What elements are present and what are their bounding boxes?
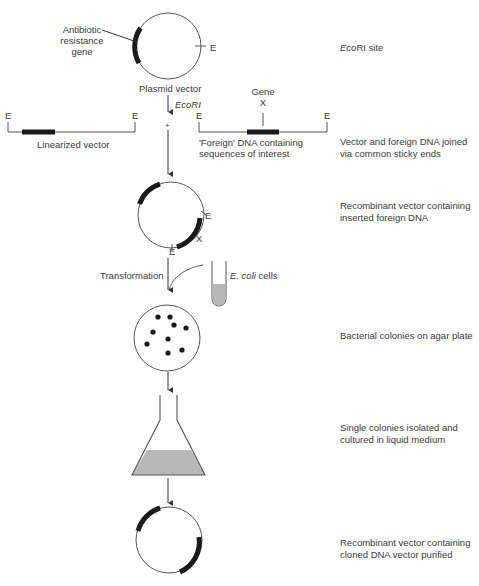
ecoli-cells-label: E. coli cells bbox=[230, 270, 278, 281]
linearized-vector-label: Linearized vector bbox=[37, 139, 109, 150]
gene-x-block bbox=[247, 130, 279, 135]
recombinant-x-label: X bbox=[196, 233, 202, 244]
linearized-vector bbox=[8, 122, 135, 135]
transformation-label: Transformation bbox=[100, 270, 164, 281]
cloning-diagram bbox=[0, 0, 479, 586]
step-cultured: Single colonies isolated and cultured in… bbox=[340, 422, 458, 445]
site-e-foreign-1: E bbox=[196, 110, 202, 121]
site-e-foreign-2: E bbox=[324, 110, 330, 121]
plasmid-vector bbox=[102, 13, 206, 79]
gene-x-label: Gene X bbox=[243, 86, 283, 108]
step-colonies: Bacterial colonies on agar plate bbox=[340, 330, 473, 342]
erlenmeyer-flask bbox=[129, 395, 205, 475]
step-joined: Vector and foreign DNA joined via common… bbox=[340, 136, 467, 159]
foreign-dna-label: 'Foreign' DNA containing sequences of in… bbox=[199, 137, 303, 159]
agar-plate bbox=[134, 305, 200, 371]
ecori-enzyme-label: EcoRI bbox=[175, 99, 201, 110]
linearized-gene-block bbox=[22, 130, 55, 135]
recombinant-site-e-2: E bbox=[169, 246, 175, 257]
plus-sign: + bbox=[165, 120, 170, 131]
transformation-curve bbox=[169, 265, 203, 290]
step-purified: Recombinant vector containing cloned DNA… bbox=[340, 537, 470, 560]
gene-pointer-line bbox=[102, 30, 137, 42]
purified-vector bbox=[136, 507, 202, 573]
site-e-left-1: E bbox=[5, 110, 11, 121]
plasmid-vector-label: Plasmid vector bbox=[139, 83, 201, 94]
antibiotic-gene-label: Antibiotic resistance gene bbox=[57, 24, 107, 57]
recombinant-site-e-1: E bbox=[205, 210, 211, 221]
antibiotic-resistance-gene-block bbox=[135, 28, 141, 63]
site-e-left-2: E bbox=[132, 110, 138, 121]
ecori-site-label-top: E bbox=[210, 42, 216, 53]
test-tube bbox=[212, 261, 226, 306]
foreign-dna bbox=[199, 113, 327, 135]
step-recombinant: Recombinant vector containing inserted f… bbox=[340, 200, 470, 223]
step-ecori-site: EcoRI site bbox=[340, 42, 383, 54]
